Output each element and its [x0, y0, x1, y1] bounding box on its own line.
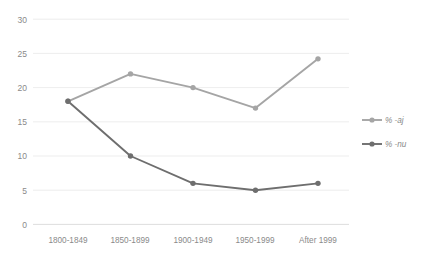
series-markers-aj: [65, 56, 320, 111]
chart-svg: 30 25 20 15 10 5 0 1800-1849 1850-1899 1…: [0, 0, 423, 263]
legend-marker-nu: [369, 141, 374, 146]
legend-item-aj[interactable]: % -aj: [362, 116, 404, 125]
series-line-nu: [68, 101, 318, 190]
x-tick-label-0: 1800-1849: [48, 236, 88, 245]
data-point: [253, 188, 258, 193]
y-tick-label-15: 15: [18, 117, 28, 127]
y-tick-label-30: 30: [18, 15, 28, 25]
y-axis-tick-labels: 30 25 20 15 10 5 0: [18, 15, 28, 230]
legend: % -aj % -nu: [362, 116, 407, 149]
legend-item-nu[interactable]: % -nu: [362, 140, 407, 149]
data-point: [128, 153, 133, 158]
x-tick-label-3: 1950-1999: [235, 236, 275, 245]
x-tick-label-4: After 1999: [299, 236, 337, 245]
data-point: [315, 56, 320, 61]
x-tick-label-2: 1900-1949: [173, 236, 213, 245]
data-point: [190, 181, 195, 186]
series-group: [65, 56, 320, 193]
data-point: [190, 85, 195, 90]
legend-label-nu: % -nu: [385, 140, 407, 149]
data-point: [128, 71, 133, 76]
y-tick-label-0: 0: [22, 220, 27, 230]
data-point: [65, 99, 70, 104]
data-point: [253, 105, 258, 110]
y-tick-label-5: 5: [22, 186, 27, 196]
data-point: [315, 181, 320, 186]
y-tick-label-10: 10: [18, 151, 28, 161]
legend-label-aj: % -aj: [385, 116, 404, 125]
x-tick-label-1: 1850-1899: [110, 236, 150, 245]
series-line-aj: [68, 59, 318, 108]
legend-marker-aj: [369, 117, 374, 122]
y-tick-label-25: 25: [18, 49, 28, 59]
x-axis-tick-labels: 1800-1849 1850-1899 1900-1949 1950-1999 …: [48, 236, 337, 245]
gridlines: [33, 19, 349, 190]
y-tick-label-20: 20: [18, 83, 28, 93]
series-markers-nu: [65, 99, 320, 193]
line-chart: 30 25 20 15 10 5 0 1800-1849 1850-1899 1…: [0, 0, 423, 263]
